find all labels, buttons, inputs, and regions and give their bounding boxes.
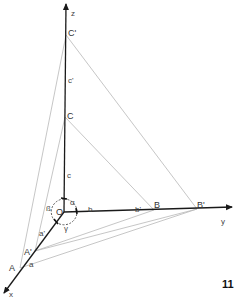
z-axis-label: z (71, 9, 75, 18)
y-axis-label: y (221, 217, 225, 226)
segment-a-prime-label: a' (39, 229, 45, 238)
x-axis-label: x (9, 290, 13, 299)
x-axis (4, 212, 64, 293)
line-c-to-b (65, 117, 154, 210)
axonometric-diagram: z y x C' C O B B' A' A c' c b b' a' a α … (0, 0, 248, 299)
page-number: 11 (222, 278, 234, 290)
point-c-prime-label: C' (68, 28, 76, 38)
line-c-prime-to-b-prime (66, 35, 197, 209)
line-a-prime-to-b (35, 210, 154, 251)
segment-a-label: a (29, 260, 34, 269)
point-c-label: C (67, 111, 74, 121)
angle-beta-label: ß (46, 204, 51, 213)
angle-gamma-label: γ (64, 224, 68, 233)
point-b-label: B (154, 200, 160, 210)
segment-b-label: b (88, 205, 93, 214)
point-a-label: A (9, 263, 15, 273)
line-a-to-b-prime (20, 209, 197, 268)
segment-b-prime-label: b' (135, 205, 141, 214)
point-b-prime-label: B' (197, 200, 205, 210)
segment-c-prime-label: c' (68, 76, 74, 85)
z-axis (64, 4, 66, 212)
construction-lines (20, 35, 197, 268)
angle-alpha-label: α (70, 198, 75, 207)
segment-c-label: c (67, 171, 71, 180)
point-a-prime-label: A' (24, 247, 32, 257)
origin-label: O (56, 207, 63, 217)
